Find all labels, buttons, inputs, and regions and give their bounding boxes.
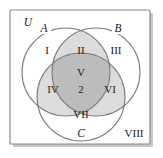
universe-label: U (24, 16, 33, 28)
center-count-label: 2 (78, 83, 84, 95)
region-label-VIII: VIII (125, 127, 144, 139)
venn-diagram-canvas: U A B C I II III IV V VI VII VIII 2 (0, 0, 163, 158)
region-label-IV: IV (47, 83, 59, 95)
set-label-A: A (39, 22, 48, 34)
venn-diagram-figure: U A B C I II III IV V VI VII VIII 2 (0, 0, 163, 158)
region-label-VI: VI (104, 83, 116, 95)
region-label-VII: VII (73, 108, 89, 120)
region-label-III: III (111, 44, 122, 56)
region-label-V: V (77, 66, 85, 78)
set-label-B: B (114, 22, 121, 34)
set-label-C: C (77, 127, 85, 139)
region-label-I: I (45, 44, 49, 56)
region-label-II: II (77, 44, 85, 56)
